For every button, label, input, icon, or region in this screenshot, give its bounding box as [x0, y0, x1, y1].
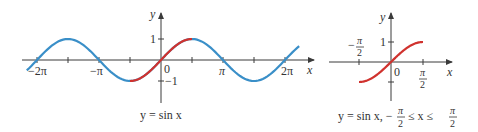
svg-text:2: 2: [420, 79, 425, 90]
right-graph: y x 0 1 − π 2 π 2 y = sin x, − π 2 ≤ x ≤…: [329, 10, 457, 129]
svg-text:2: 2: [450, 118, 455, 129]
tick-label-neg-2pi: −2π: [28, 64, 47, 78]
tick-label-neg-half-pi: − π 2: [348, 35, 364, 58]
tick-label-pi: π: [219, 64, 226, 78]
svg-text:π: π: [420, 67, 426, 78]
y-axis-label: y: [149, 7, 156, 21]
svg-text:π: π: [398, 105, 404, 116]
tick-label-neg-one: −1: [165, 74, 178, 88]
svg-text:y = sin x, −: y = sin x, −: [338, 109, 393, 123]
origin-label-right: 0: [394, 65, 400, 79]
tick-label-2pi: 2π: [281, 64, 293, 78]
x-axis-label-right: x: [446, 65, 453, 79]
svg-text:≤ x ≤: ≤ x ≤: [405, 109, 436, 123]
left-graph: y x −2π −π 0 π 2π 1 −1 y = sin x: [22, 7, 314, 122]
svg-text:2: 2: [398, 118, 403, 129]
tick-label-one-right: 1: [380, 35, 386, 49]
y-axis-label-right: y: [379, 10, 386, 24]
left-caption: y = sin x: [140, 108, 182, 122]
tick-label-neg-pi: −π: [90, 64, 103, 78]
tick-label-half-pi: π 2: [419, 67, 427, 90]
svg-text:−: −: [348, 38, 355, 52]
figure: y x −2π −π 0 π 2π 1 −1 y = sin x y x 0 1…: [0, 0, 478, 132]
right-caption: y = sin x, − π 2 ≤ x ≤ π 2: [338, 105, 457, 129]
tick-label-one: 1: [150, 32, 156, 46]
svg-text:π: π: [357, 35, 363, 46]
x-axis-label: x: [306, 63, 313, 77]
svg-text:π: π: [450, 105, 456, 116]
svg-text:2: 2: [357, 47, 362, 58]
